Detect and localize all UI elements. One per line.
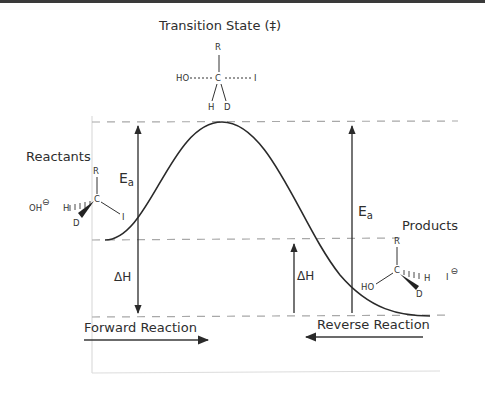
reactant-d-label: D xyxy=(73,218,80,228)
reverse-reaction-label: Reverse Reaction xyxy=(317,317,430,332)
product-h-label: H xyxy=(424,273,430,283)
ts-h-label: H xyxy=(208,102,214,112)
forward-ea-label: Ea xyxy=(119,170,134,188)
ts-d-label: D xyxy=(224,102,231,112)
ts-c-label: C xyxy=(215,73,221,83)
negative-charge-icon: ⊖ xyxy=(451,266,459,276)
reactant-r-label: R xyxy=(93,166,99,176)
reactant-oh-label: OH⊖ xyxy=(29,197,50,213)
oh-text: OH xyxy=(29,203,42,213)
product-d-label: D xyxy=(416,289,423,299)
transition-state-title: Transition State (‡) xyxy=(159,18,281,33)
ts-ho-label: HO xyxy=(176,73,189,83)
forward-delta-h-label: ΔH xyxy=(114,270,131,284)
ea-e: E xyxy=(358,203,367,219)
reactants-label: Reactants xyxy=(26,149,91,164)
ea-e: E xyxy=(119,170,128,186)
product-ho-label: HO xyxy=(361,282,374,292)
product-c-label: C xyxy=(394,265,400,275)
reaction-energy-curve xyxy=(105,122,430,316)
negative-charge-icon: ⊖ xyxy=(42,197,50,207)
products-label: Products xyxy=(402,218,458,233)
ts-r-label: R xyxy=(215,42,221,52)
product-i-label: I⊖ xyxy=(446,266,458,282)
reverse-ea-label: Ea xyxy=(358,203,373,221)
x-axis xyxy=(92,371,440,373)
ea-sub: a xyxy=(128,177,134,188)
reactant-h-label: H xyxy=(63,203,69,213)
ts-i-label: I xyxy=(254,73,257,83)
transition-state-bonds xyxy=(190,55,253,101)
product-wedge-bond xyxy=(400,274,419,290)
energy-diagram-graphics xyxy=(0,0,485,393)
i-text: I xyxy=(446,272,449,282)
ea-sub: a xyxy=(367,210,373,221)
product-r-label: R xyxy=(394,236,400,246)
transition-state-level xyxy=(92,121,458,122)
forward-reaction-label: Forward Reaction xyxy=(84,320,197,335)
reactant-c-label: C xyxy=(94,194,100,204)
reactant-i-label: I xyxy=(122,212,125,222)
reverse-delta-h-label: ΔH xyxy=(297,269,314,283)
